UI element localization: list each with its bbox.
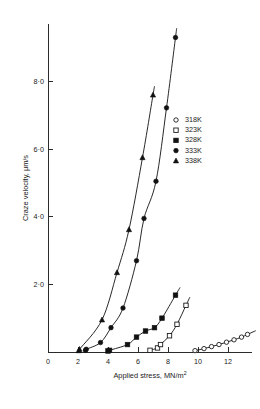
- data-point-333K: [98, 340, 103, 345]
- legend-item-328K[interactable]: 328K: [174, 135, 202, 144]
- legend-marker-328K: [174, 138, 179, 143]
- data-series-layer: [76, 29, 256, 354]
- series-323K: [148, 297, 190, 352]
- craze-velocity-plot: 2·04·06·08·0 024681012 318K323K328K333K3…: [0, 0, 260, 409]
- data-point-333K: [142, 216, 147, 221]
- data-point-323K: [148, 348, 152, 352]
- legend-marker-318K: [174, 118, 178, 122]
- data-point-328K: [107, 348, 112, 353]
- data-point-333K: [164, 106, 169, 111]
- y-tick-label: 4·0: [34, 212, 44, 221]
- legend-item-333K[interactable]: 333K: [174, 146, 202, 155]
- data-point-333K: [109, 325, 114, 330]
- data-point-328K: [143, 329, 148, 334]
- x-axis-title: Applied stress, MN/m2: [113, 370, 186, 380]
- data-point-338K: [126, 227, 131, 232]
- series-curve-328K: [108, 287, 180, 351]
- legend-label-333K: 333K: [185, 146, 202, 155]
- x-tick-label: 0: [46, 357, 50, 366]
- legend-label-318K: 318K: [185, 115, 202, 124]
- data-point-328K: [173, 293, 178, 298]
- y-tick-label: 2·0: [34, 280, 44, 289]
- legend-item-338K[interactable]: 338K: [173, 156, 202, 165]
- data-point-333K: [173, 35, 178, 40]
- data-point-333K: [121, 306, 126, 311]
- series-333K: [83, 29, 178, 353]
- x-tick-label: 6: [136, 357, 140, 366]
- legend-label-328K: 328K: [185, 135, 202, 144]
- data-point-328K: [160, 316, 165, 321]
- data-point-338K: [114, 270, 119, 275]
- data-point-323K: [184, 303, 188, 307]
- legend-marker-323K: [174, 128, 178, 132]
- legend-label-338K: 338K: [185, 156, 202, 165]
- legend-label-323K: 323K: [185, 125, 202, 134]
- data-point-333K: [134, 258, 139, 263]
- data-point-318K: [193, 348, 197, 352]
- data-point-318K: [217, 342, 221, 346]
- data-point-338K: [140, 155, 145, 160]
- data-point-323K: [167, 334, 171, 338]
- legend-item-323K[interactable]: 323K: [174, 125, 202, 134]
- data-point-318K: [239, 335, 243, 339]
- data-point-338K: [99, 317, 104, 322]
- data-point-333K: [154, 179, 159, 184]
- data-point-333K: [84, 347, 89, 352]
- data-point-328K: [152, 325, 157, 330]
- x-axis-tick-labels: 024681012: [46, 357, 232, 366]
- y-axis-tick-labels: 2·04·06·08·0: [34, 77, 44, 289]
- y-axis-ticks: [48, 81, 53, 284]
- legend-marker-338K: [173, 158, 178, 163]
- data-point-323K: [158, 342, 162, 346]
- axes-group: 2·04·06·08·0 024681012: [34, 24, 252, 366]
- y-axis-title: Craze velocity, μm/s: [21, 155, 30, 221]
- series-curve-333K: [85, 29, 177, 351]
- x-tick-label: 12: [224, 357, 232, 366]
- data-point-318K: [232, 338, 236, 342]
- x-tick-label: 10: [194, 357, 202, 366]
- legend-marker-333K: [174, 148, 179, 153]
- x-tick-label: 8: [166, 357, 170, 366]
- series-318K: [193, 331, 256, 353]
- data-point-323K: [175, 322, 179, 326]
- data-point-318K: [209, 344, 213, 348]
- data-point-328K: [125, 342, 130, 347]
- y-tick-label: 8·0: [34, 77, 44, 86]
- x-tick-label: 4: [106, 357, 110, 366]
- figure-canvas: 2·04·06·08·0 024681012 318K323K328K333K3…: [0, 0, 260, 409]
- x-axis-title-text: Applied stress, MN/m: [113, 371, 183, 380]
- x-tick-label: 2: [76, 357, 80, 366]
- chart-legend: 318K323K328K333K338K: [173, 115, 202, 165]
- data-point-338K: [150, 92, 155, 97]
- x-axis-title-exponent: 2: [184, 370, 187, 376]
- data-point-328K: [134, 335, 139, 340]
- y-tick-label: 6·0: [34, 145, 44, 154]
- legend-item-318K[interactable]: 318K: [174, 115, 202, 124]
- data-point-318K: [245, 332, 249, 336]
- data-point-318K: [202, 346, 206, 350]
- data-point-318K: [224, 340, 228, 344]
